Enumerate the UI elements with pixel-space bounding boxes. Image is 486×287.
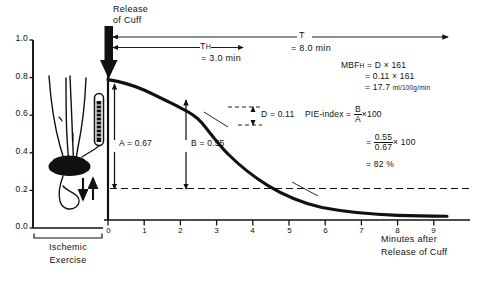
th-value: = 3.0 min: [201, 54, 241, 63]
x-tick-6: 6: [320, 227, 331, 235]
th-symbol-group: TH: [200, 42, 211, 51]
measure-d: [228, 107, 262, 125]
pie-frac2-tail: × 100: [393, 138, 416, 147]
manometer-icon: [95, 94, 104, 146]
x-tick-4: 4: [247, 227, 258, 235]
mbf-equation-line1: MBFH = D × 161: [341, 61, 406, 70]
inset-bracket: [33, 228, 103, 238]
inset-y-axis: [30, 40, 34, 228]
pie-fraction-numeric: 0.550.67: [374, 133, 393, 152]
y-tick-1: 1.0: [8, 34, 28, 43]
ischemic-exercise-label-line1: Ischemic: [33, 243, 103, 252]
mbf-rhs-1: D × 161: [375, 60, 406, 70]
limb-illustration: [49, 76, 99, 209]
x-axis-caption-line1: Minutes after: [381, 235, 437, 244]
pie-frac1-numerator: B: [354, 105, 362, 114]
marker-a-label: A = 0.67: [119, 139, 152, 148]
mbf-rhs-2: 0.11 × 161: [373, 71, 415, 81]
release-of-cuff-label-line1: Release: [113, 5, 148, 14]
pie-fraction-symbolic: BA: [354, 105, 362, 124]
y-tick-4: 0.4: [8, 147, 28, 156]
pie-index-equation-line1: PIE-index = BA×100: [305, 105, 382, 124]
figure-root: Release of Cuff 1.0 0.8 0.6 0.4 0.2 0.0 …: [0, 0, 486, 287]
x-tick-3: 3: [211, 227, 222, 235]
mbf-equation-line2: = 0.11 × 161: [365, 72, 415, 81]
mbf-equation-line3: = 17.7 ml/100g/min: [365, 83, 430, 92]
pie-frac1-denominator: A: [354, 114, 362, 124]
pie-frac2-denominator: 0.67: [374, 142, 393, 152]
ischemic-exercise-label-line2: Exercise: [33, 256, 103, 265]
y-tick-6: 0.0: [8, 222, 28, 231]
pie-frac1-tail: ×100: [362, 110, 382, 119]
pie-frac2-numerator: 0.55: [374, 133, 393, 142]
mbf-rhs-3: 17.7: [373, 82, 390, 92]
release-of-cuff-arrow-icon: [100, 26, 118, 79]
y-tick-2: 0.8: [8, 72, 28, 81]
x-tick-0: 0: [103, 227, 114, 235]
release-of-cuff-label-line2: of Cuff: [113, 16, 141, 25]
y-tick-3: 0.6: [8, 109, 28, 118]
marker-b-label: B = 0.55: [191, 139, 225, 148]
pie-index-result: = 82 %: [366, 160, 394, 169]
t-symbol: T: [299, 31, 305, 40]
main-x-axis: [104, 220, 470, 226]
marker-d-label: D = 0.11: [261, 110, 294, 119]
x-tick-7: 7: [356, 227, 367, 235]
y-tick-5: 0.2: [8, 185, 28, 194]
pie-index-name: PIE-index: [305, 109, 344, 119]
x-tick-2: 2: [175, 227, 186, 235]
mbf-name: MBF: [341, 60, 360, 70]
th-subscript: H: [206, 43, 211, 50]
mbf-units: ml/100g/min: [393, 84, 431, 91]
pie-index-equation-line2: = 0.550.67× 100: [366, 133, 416, 152]
t-value: = 8.0 min: [291, 44, 331, 53]
x-tick-1: 1: [139, 227, 150, 235]
cuff-band: [49, 156, 91, 177]
x-axis-caption-line2: Release of Cuff: [381, 248, 447, 257]
x-tick-5: 5: [284, 227, 295, 235]
exercise-arrows-icon: [83, 178, 93, 200]
